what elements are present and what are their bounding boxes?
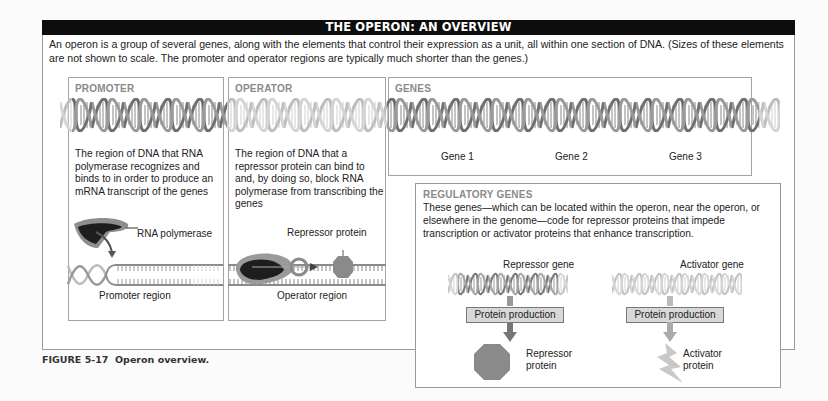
repressor-protein-label: Repressor protein bbox=[287, 227, 366, 238]
gene-2-label: Gene 2 bbox=[555, 151, 588, 162]
activator-arrow bbox=[663, 296, 677, 346]
operator-label: OPERATOR bbox=[235, 83, 292, 94]
repressor-product-label-line2: protein bbox=[526, 360, 557, 371]
gene-3-label: Gene 3 bbox=[669, 151, 702, 162]
repressor-arrow bbox=[503, 296, 517, 346]
rna-polymerase-illustration bbox=[68, 218, 228, 268]
figure-title: THE OPERON: AN OVERVIEW bbox=[42, 20, 795, 35]
activator-product-label-line2: protein bbox=[683, 360, 714, 371]
operator-description: The region of DNA that a repressor prote… bbox=[235, 148, 385, 211]
activator-gene-label: Activator gene bbox=[680, 259, 744, 270]
figure-number: FIGURE 5-17 bbox=[42, 354, 108, 365]
repressor-product-label-line1: Repressor bbox=[526, 348, 572, 359]
regulatory-genes-label: REGULATORY GENES bbox=[423, 189, 533, 200]
promoter-description: The region of DNA that RNA polymerase re… bbox=[75, 148, 223, 198]
promoter-dna-strand bbox=[68, 262, 223, 288]
intro-text: An operon is a group of several genes, a… bbox=[49, 38, 789, 65]
promoter-label: PROMOTER bbox=[75, 83, 134, 94]
activator-protein-lightning-icon bbox=[655, 343, 685, 383]
activator-product-label-line1: Activator bbox=[683, 348, 722, 359]
figure-caption-text: Operon overview. bbox=[115, 354, 209, 365]
promoter-region-label: Promoter region bbox=[99, 290, 171, 301]
operon-dna-helix bbox=[60, 98, 780, 132]
genes-label: GENES bbox=[395, 83, 431, 94]
activator-gene-dna bbox=[612, 272, 742, 296]
gene-1-label: Gene 1 bbox=[441, 151, 474, 162]
repressor-gene-label: Repressor gene bbox=[503, 259, 574, 270]
repressor-gene-dna bbox=[448, 272, 568, 296]
title-bar: THE OPERON: AN OVERVIEW bbox=[42, 20, 795, 35]
regulatory-genes-description: These genes—which can be located within … bbox=[423, 201, 777, 240]
repressor-protein-octagon-icon bbox=[473, 343, 511, 381]
figure-caption: FIGURE 5-17 Operon overview. bbox=[42, 354, 209, 365]
blocked-polymerase-illustration bbox=[232, 244, 382, 294]
